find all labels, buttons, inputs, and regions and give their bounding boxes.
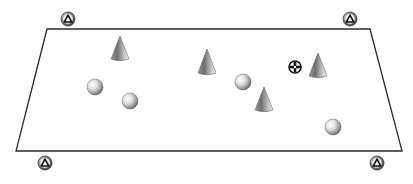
scene-objects: [87, 36, 341, 135]
scene-canvas: [0, 0, 413, 184]
sphere-3-icon: [235, 74, 251, 90]
sphere-4-icon: [325, 119, 341, 135]
marker-top-right-icon: [343, 12, 357, 26]
ground-plane: [16, 29, 402, 151]
scene-diagram: [0, 0, 413, 184]
cone-4-icon: [255, 87, 273, 112]
marker-bottom-left-icon: [38, 156, 52, 170]
target-crosshair-icon: [289, 61, 301, 73]
marker-top-left-icon: [61, 12, 75, 26]
cone-2-icon: [198, 49, 216, 75]
marker-bottom-right-icon: [370, 156, 384, 170]
cone-3-icon: [309, 53, 327, 78]
cone-1-icon: [111, 36, 129, 61]
plane-outline: [16, 29, 402, 151]
sphere-1-icon: [87, 79, 103, 95]
sphere-2-icon: [122, 93, 138, 109]
